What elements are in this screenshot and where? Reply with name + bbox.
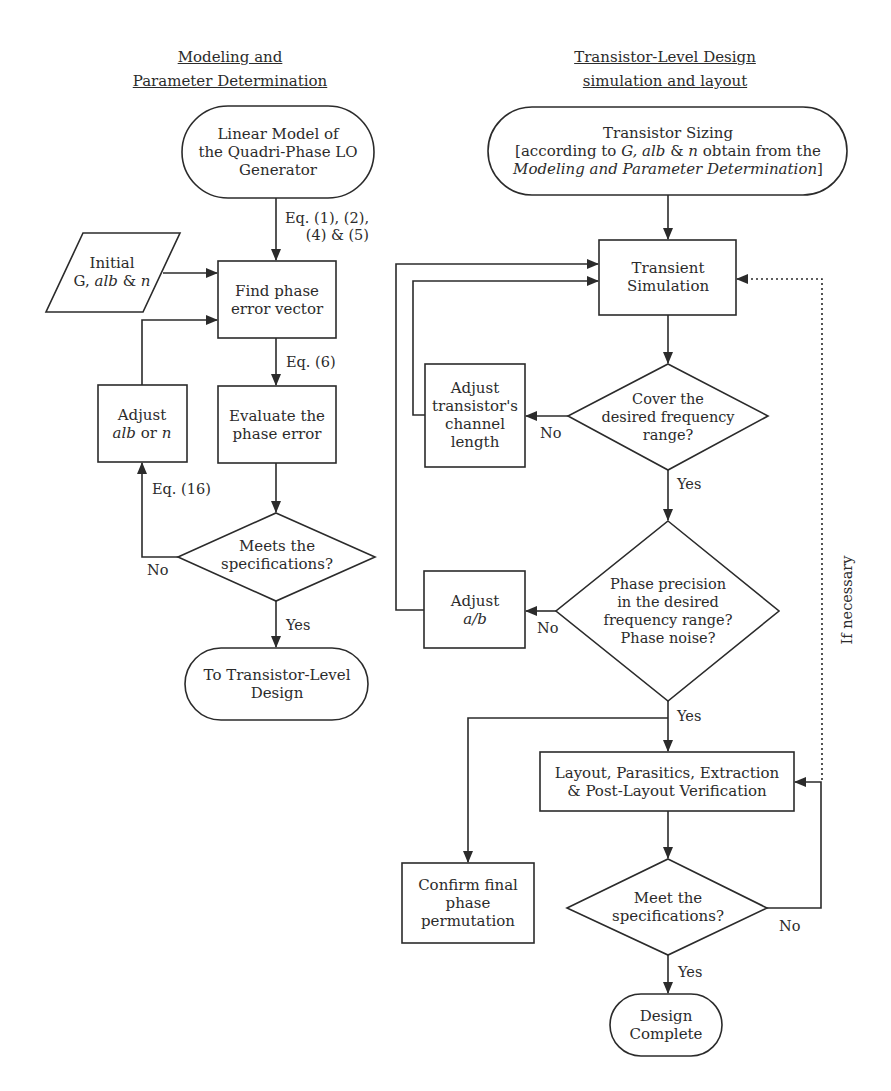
cover-no-label: No <box>540 425 561 442</box>
arrow-adjust-to-find <box>142 320 217 385</box>
meet-label: Meet the specifications? <box>612 889 724 925</box>
meets-no-label: No <box>147 562 168 579</box>
eq-1-2-4-5-label: Eq. (1), (2), (4) & (5) <box>285 210 369 244</box>
confirm-label: Confirm final phase permutation <box>418 876 518 930</box>
cover-yes-label: Yes <box>677 476 701 493</box>
arrow-no-to-adjust <box>142 463 178 557</box>
meets-yes-label: Yes <box>286 617 310 634</box>
if-necessary-dotted-loop <box>737 279 822 780</box>
precision-no-label: No <box>537 620 558 637</box>
meet-yes-label: Yes <box>678 964 702 981</box>
design-complete-label: Design Complete <box>630 1007 703 1043</box>
linear-model-label: Linear Model of the Quadri-Phase LO Gene… <box>198 125 357 179</box>
meet-no-label: No <box>779 918 800 935</box>
adjust-ab-label: Adjust a/b <box>451 592 499 628</box>
evaluate-label: Evaluate the phase error <box>229 407 325 443</box>
if-necessary-label: If necessary <box>839 556 855 645</box>
cover-label: Cover the desired frequency range? <box>601 390 734 444</box>
transient-label: Transient Simulation <box>627 259 709 295</box>
adjust-alb-label: Adjust alb or n <box>113 406 172 442</box>
eq-16-label: Eq. (16) <box>152 481 211 498</box>
right-heading-line2: simulation and layout <box>583 72 747 90</box>
transistor-sizing-label: Transistor Sizing [according to G, alb &… <box>513 124 823 178</box>
layout-label: Layout, Parasitics, Extraction & Post-La… <box>555 764 780 800</box>
initial-label: Initial G, alb & n <box>74 254 151 290</box>
to-transistor-label: To Transistor-Level Design <box>204 666 351 702</box>
right-heading-line1: Transistor-Level Design <box>574 48 756 66</box>
adjust-channel-label: Adjust transistor's channel length <box>432 379 518 451</box>
meets-label: Meets the specifications? <box>221 537 333 573</box>
phase-precision-label: Phase precision in the desired frequency… <box>604 575 733 647</box>
left-heading-line2: Parameter Determination <box>133 72 328 90</box>
left-heading-line1: Modeling and <box>178 48 283 66</box>
find-phase-label: Find phase error vector <box>231 282 323 318</box>
eq-6-label: Eq. (6) <box>286 354 336 371</box>
precision-yes-label: Yes <box>677 708 701 725</box>
